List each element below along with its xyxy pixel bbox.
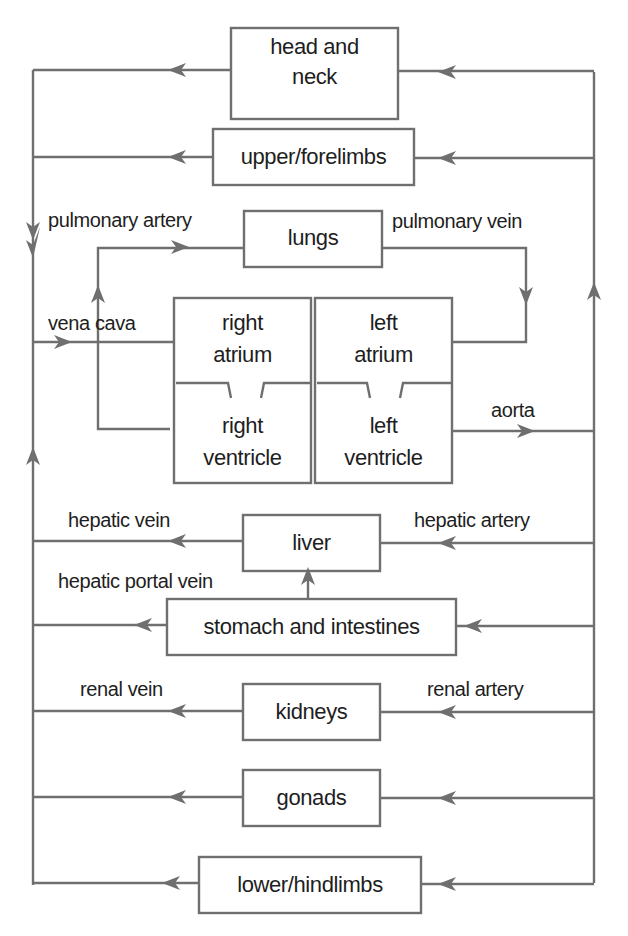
- left-atrium-label: left atrium: [315, 310, 452, 368]
- right-ventricle-line2: ventricle: [174, 445, 311, 471]
- hepatic-vein-label: hepatic vein: [68, 508, 170, 532]
- upper-limbs-label: upper/forelimbs: [213, 144, 414, 170]
- left-atrium-line2: atrium: [315, 342, 452, 368]
- hepatic-artery-label: hepatic artery: [414, 508, 530, 532]
- aorta-label: aorta: [491, 398, 535, 422]
- gonads-label: gonads: [243, 785, 380, 811]
- head-neck-label: head and neck: [231, 34, 398, 90]
- left-atrium-line1: left: [315, 310, 452, 336]
- pulmonary-vein-label: pulmonary vein: [392, 209, 522, 233]
- kidneys-label: kidneys: [243, 699, 380, 725]
- pulmonary-artery-label: pulmonary artery: [48, 208, 192, 232]
- renal-artery-label: renal artery: [427, 677, 523, 701]
- head-neck-line1: head and: [231, 34, 398, 60]
- lungs-label: lungs: [244, 225, 382, 251]
- lower-limbs-label: lower/hindlimbs: [199, 872, 421, 898]
- stomach-label: stomach and intestines: [167, 614, 456, 640]
- left-ventricle-line2: ventricle: [315, 445, 452, 471]
- right-atrium-label: right atrium: [174, 310, 311, 368]
- right-ventricle-line1: right: [174, 413, 311, 439]
- hepatic-portal-vein-label: hepatic portal vein: [58, 569, 213, 593]
- left-ventricle-label: left ventricle: [315, 413, 452, 471]
- left-ventricle-line1: left: [315, 413, 452, 439]
- liver-label: liver: [243, 530, 380, 556]
- right-atrium-line2: atrium: [174, 342, 311, 368]
- vena-cava-label: vena cava: [48, 311, 136, 335]
- renal-vein-label: renal vein: [80, 677, 163, 701]
- right-atrium-line1: right: [174, 310, 311, 336]
- head-neck-line2: neck: [231, 64, 398, 90]
- right-ventricle-label: right ventricle: [174, 413, 311, 471]
